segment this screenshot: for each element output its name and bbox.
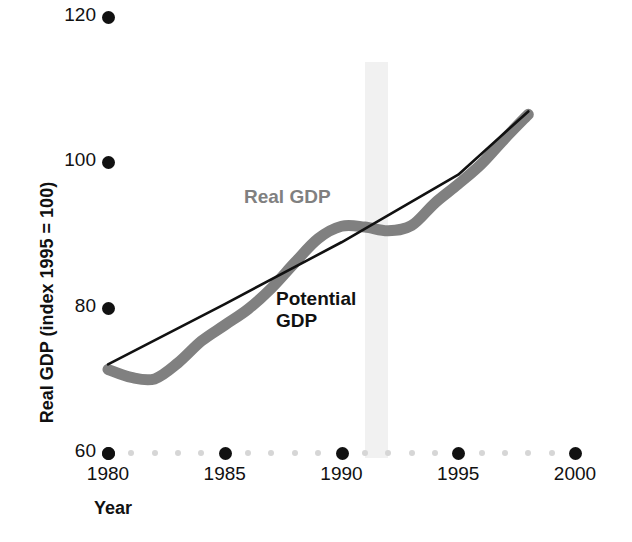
y-tick-dot (102, 302, 115, 315)
x-tick-dot-minor (479, 450, 485, 456)
x-axis-title: Year (94, 498, 132, 519)
x-tick-label: 1990 (307, 463, 377, 485)
gdp-chart-figure: 6080100120 19801985199019952000 Real GDP… (0, 0, 632, 542)
x-tick-dot-major (569, 447, 582, 460)
x-tick-dot-major (102, 447, 115, 460)
x-tick-dot-major (336, 447, 349, 460)
x-tick-dot-minor (432, 450, 438, 456)
x-tick-dot-minor (549, 450, 555, 456)
series-line-real-gdp (108, 114, 528, 380)
y-tick-dot (102, 11, 115, 24)
x-tick-dot-minor (292, 450, 298, 456)
x-tick-dot-major (219, 447, 232, 460)
x-tick-dot-minor (152, 450, 158, 456)
x-tick-label: 1995 (423, 463, 493, 485)
series-label-real-gdp: Real GDP (244, 186, 331, 208)
x-tick-dot-minor (175, 450, 181, 456)
x-tick-label: 1980 (73, 463, 143, 485)
x-tick-dot-minor (502, 450, 508, 456)
y-tick-label: 120 (48, 4, 96, 26)
x-tick-dot-minor (362, 450, 368, 456)
x-tick-label: 2000 (540, 463, 610, 485)
x-tick-dot-minor (409, 450, 415, 456)
y-axis-title: Real GDP (index 1995 = 100) (37, 138, 58, 468)
x-tick-label: 1985 (190, 463, 260, 485)
series-label-potential-gdp: Potential GDP (276, 288, 356, 333)
